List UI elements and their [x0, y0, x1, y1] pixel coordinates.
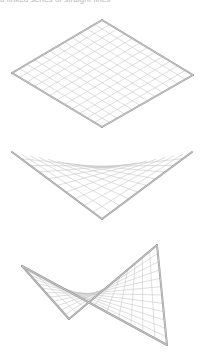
ruling-line [66, 159, 156, 192]
frame-edge-highlight [102, 152, 192, 219]
ruling-line [93, 159, 183, 169]
flat-plane-figure [12, 20, 193, 127]
hyperbolic-paraboloid-diagram [0, 0, 208, 361]
frame-edge-highlight [22, 266, 69, 319]
frame-edge-highlight [12, 73, 102, 127]
ruling-line [95, 70, 186, 122]
frame-edge-highlight [12, 20, 102, 73]
ruling-line [57, 47, 148, 102]
ruling-line [65, 52, 156, 104]
ruling-line [42, 55, 132, 109]
ruling-line [142, 257, 143, 332]
ruling-line [50, 51, 140, 105]
hypar-side-view-figure [12, 152, 192, 219]
ruling-lines [20, 24, 186, 122]
ruling-line [20, 69, 110, 123]
ruling-line [35, 60, 125, 114]
ruling-line [53, 278, 160, 301]
ruling-line [93, 154, 183, 213]
frame-edge-highlight [102, 75, 193, 127]
edge-frame [12, 152, 192, 219]
ruling-lines [21, 154, 183, 213]
frame-edge-highlight [102, 20, 193, 75]
hypar-perspective-figure [22, 245, 167, 345]
ruling-line [57, 270, 159, 306]
frame-edge-highlight [22, 266, 167, 345]
ruling-line [80, 61, 171, 113]
frame-edge-highlight [12, 152, 102, 219]
